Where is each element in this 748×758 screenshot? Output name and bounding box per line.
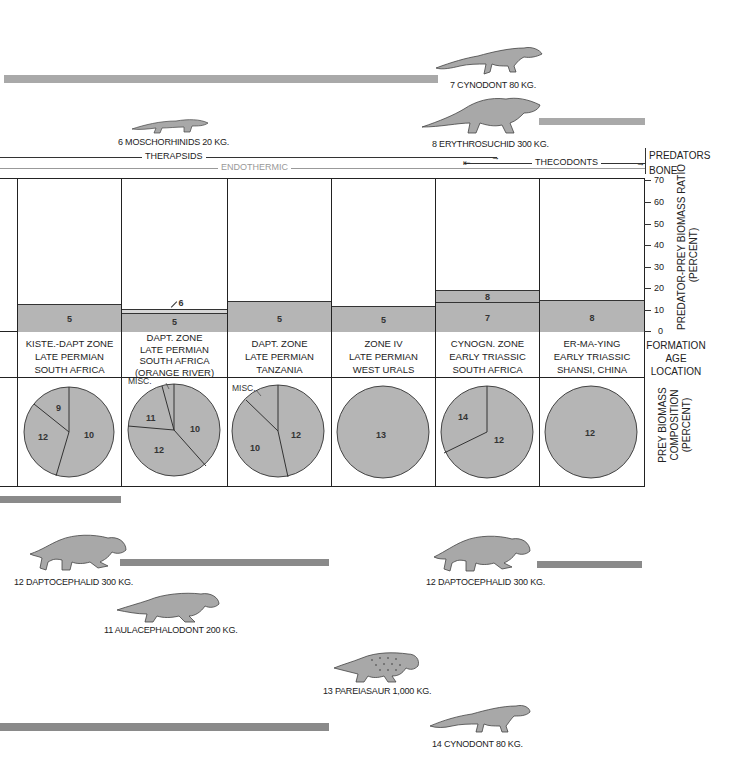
tick-label: 60 (654, 197, 664, 207)
tick (644, 310, 651, 311)
age: LATE PERMIAN (122, 344, 227, 356)
pie-label: 12 (38, 432, 48, 442)
row-labels: FORMATION AGE LOCATION (645, 339, 707, 378)
predators-side-label: PREDATORS (649, 150, 710, 161)
pie-label: MISC. (128, 378, 152, 386)
pie-chart-4: 13 (332, 378, 435, 486)
age-row-label: AGE (645, 352, 707, 365)
pie-label: 9 (56, 403, 61, 413)
therapsids-rule (0, 157, 497, 158)
ratio-axis-title: PREDATOR-PREY BIOMASS RATIO (PERCENT) (676, 180, 700, 330)
daptocephalid-illustration-icon (432, 533, 532, 575)
pie-chart-1: 9 12 10 (18, 378, 121, 486)
predator-label: 6 MOSCHORHINIDS 20 KG. (118, 137, 229, 147)
pie-label: 11 (146, 413, 156, 423)
tick-label: 10 (654, 305, 664, 315)
chart-top-border (0, 178, 645, 179)
age: LATE PERMIAN (18, 350, 121, 363)
column-info: ER-MA-YING EARLY TRIASSIC SHANSI, CHINA (540, 337, 644, 376)
range-bar-prey-14 (0, 723, 329, 731)
range-bar-prey-12c (537, 561, 642, 568)
range-bar-erythrosuchid-8 (539, 118, 645, 125)
age: EARLY TRIASSIC (436, 350, 539, 363)
location: SOUTH AFRICA (436, 363, 539, 376)
predator-label: 8 ERYTHROSUCHID 300 KG. (432, 139, 549, 149)
pie-label: 12 (291, 430, 301, 440)
tick-label: 0 (658, 326, 663, 336)
location-row-label: LOCATION (645, 365, 707, 378)
bar-label: 5 (332, 315, 435, 325)
thecodonts-label: THECODONTS (532, 157, 601, 167)
pie-label: 14 (458, 412, 468, 422)
ratio-axis-label: PREDATOR-PREY BIOMASS RATIO (676, 180, 688, 330)
age: LATE PERMIAN (228, 350, 331, 363)
ratio-axis-unit: (PERCENT) (688, 180, 700, 330)
column-info: DAPT. ZONE LATE PERMIAN SOUTH AFRICA (OR… (122, 332, 227, 378)
thecodonts-end-arrow-icon: → (636, 159, 645, 168)
tick (644, 245, 651, 246)
formation: ZONE IV (332, 337, 435, 350)
moschorhinid-illustration-icon (130, 115, 210, 135)
thecodonts-start-arrow-icon: ⇤ (463, 159, 471, 168)
column-info: DAPT. ZONE LATE PERMIAN TANZANIA (228, 337, 331, 376)
endothermic-label: ENDOTHERMIC (218, 162, 291, 172)
location-detail: (ORANGE RIVER) (122, 367, 227, 379)
pie-chart-2: MISC. 11 12 10 (122, 378, 227, 486)
location: SHANSI, CHINA (540, 363, 644, 376)
bar-label: 5 (18, 314, 121, 324)
prey-axis-line3: (PERCENT) (681, 380, 693, 470)
location: SOUTH AFRICA (18, 363, 121, 376)
age: EARLY TRIASSIC (540, 350, 644, 363)
range-bar-prey-12a (0, 496, 121, 503)
tick (644, 288, 651, 289)
prey-axis-line1: PREY BIOMASS (657, 380, 669, 470)
tick (644, 331, 651, 332)
endothermic-rule (0, 168, 645, 169)
pie-label: 12 (494, 435, 504, 445)
pie-label: MISC. (232, 383, 256, 393)
prey-axis-title: PREY BIOMASS COMPOSITION (PERCENT) (657, 380, 693, 470)
column-info: KISTE.-DAPT ZONE LATE PERMIAN SOUTH AFRI… (18, 337, 121, 376)
tick (644, 180, 651, 181)
formation: DAPT. ZONE (122, 332, 227, 344)
location: WEST URALS (332, 363, 435, 376)
pie-label: 13 (376, 430, 386, 440)
formation-row-label: FORMATION (645, 339, 707, 352)
pie-label: 10 (84, 430, 94, 440)
formation: KISTE.-DAPT ZONE (18, 337, 121, 350)
table-bottom (0, 486, 645, 487)
bar-label: 8 (436, 292, 539, 302)
bar-label: 6 (176, 298, 186, 308)
daptocephalid-illustration-icon (28, 532, 128, 574)
tick-label: 40 (654, 240, 664, 250)
prey-label: 12 DAPTOCEPHALID 300 KG. (14, 577, 133, 587)
tick-label: 30 (654, 262, 664, 272)
tick (644, 267, 651, 268)
prey-axis-line2: COMPOSITION (669, 380, 681, 470)
formation: DAPT. ZONE (228, 337, 331, 350)
bar-label: 8 (540, 313, 644, 323)
legend-bracket (645, 148, 646, 174)
range-bar-prey-12b (120, 559, 329, 566)
tick (644, 202, 651, 203)
formation: CYNOGN. ZONE (436, 337, 539, 350)
therapsids-label: THERAPSIDS (142, 151, 206, 161)
pie-chart-3: MISC. 10 12 (228, 378, 331, 486)
erythrosuchid-illustration-icon (420, 93, 545, 137)
pie-label: 12 (154, 445, 164, 455)
tick-label: 50 (654, 219, 664, 229)
bar-label: 5 (122, 317, 227, 327)
pie-label: 10 (190, 424, 200, 434)
prey-label: 13 PAREIASAUR 1,000 KG. (323, 686, 431, 696)
pareiasaur-illustration-icon (332, 652, 422, 684)
tick-label: 70 (654, 175, 664, 185)
age: LATE PERMIAN (332, 350, 435, 363)
pie-chart-6: 12 (540, 378, 644, 486)
predator-label: 7 CYNODONT 80 KG. (450, 80, 536, 90)
range-bar-cynodont-7 (4, 75, 438, 83)
pie-label: 12 (585, 428, 595, 438)
bar-label: 5 (228, 314, 331, 324)
column-info: CYNOGN. ZONE EARLY TRIASSIC SOUTH AFRICA (436, 337, 539, 376)
prey-label: 12 DAPTOCEPHALID 300 KG. (426, 577, 545, 587)
location: SOUTH AFRICA (122, 355, 227, 367)
